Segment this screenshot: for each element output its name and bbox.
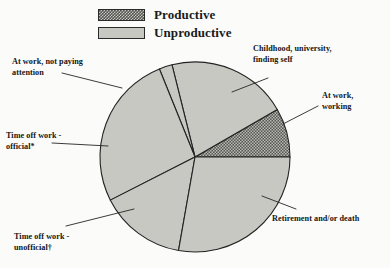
pie-slice [179,157,291,252]
callout-childhood: Childhood, university, finding self [253,44,381,65]
callout-retirement: Retirement and/or death [272,214,388,225]
pie-chart-figure: Productive Unproductive [0,0,390,268]
callout-at-work-working: At work, working [322,91,384,112]
pie-slices-group [100,62,290,252]
leader-line-at-work-working [283,106,318,124]
callout-not-paying-attention: At work, not paying attention [12,57,132,78]
callout-time-off-unofficial: Time off work - unofficial† [14,232,110,253]
callout-time-off-official: Time off work - official* [6,131,102,152]
